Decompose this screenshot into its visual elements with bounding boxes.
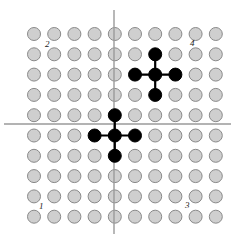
grid-dot: [88, 28, 101, 41]
grid-dot: [149, 109, 162, 122]
marked-dot: [129, 68, 142, 81]
grid-dot: [209, 210, 222, 223]
grid-dot: [48, 109, 61, 122]
grid-dot: [149, 149, 162, 162]
grid-dot: [189, 109, 202, 122]
grid-dot: [88, 190, 101, 203]
quadrant-label-4: 4: [190, 38, 195, 48]
grid-dot: [68, 48, 81, 61]
grid-dot: [108, 68, 121, 81]
grid-dot: [88, 68, 101, 81]
grid-dot: [189, 48, 202, 61]
grid-dot: [149, 170, 162, 183]
grid-dot: [209, 28, 222, 41]
grid-dot: [108, 48, 121, 61]
grid-dot: [169, 88, 182, 101]
marked-dot: [108, 109, 121, 122]
grid-dot: [209, 48, 222, 61]
marked-dot: [129, 129, 142, 142]
grid-dot: [129, 170, 142, 183]
grid-dot: [28, 149, 41, 162]
grid-dot: [28, 109, 41, 122]
marked-dot: [149, 48, 162, 61]
grid-dot: [169, 149, 182, 162]
grid-dot: [189, 210, 202, 223]
grid-dot: [68, 190, 81, 203]
grid-dot: [48, 129, 61, 142]
grid-dot: [108, 28, 121, 41]
grid-dot: [68, 28, 81, 41]
grid-dot: [209, 149, 222, 162]
grid-dot: [48, 48, 61, 61]
grid-dot: [108, 190, 121, 203]
grid-dot: [28, 68, 41, 81]
grid-dot: [68, 68, 81, 81]
grid-dot: [169, 28, 182, 41]
grid-dot: [48, 28, 61, 41]
grid-dot: [88, 210, 101, 223]
grid-dot: [28, 210, 41, 223]
grid-dot: [28, 48, 41, 61]
grid-dot: [209, 170, 222, 183]
grid-dot: [189, 190, 202, 203]
grid-dot: [28, 88, 41, 101]
grid-dot: [48, 68, 61, 81]
grid-dot: [28, 28, 41, 41]
marked-dot: [108, 129, 121, 142]
grid-dot: [68, 88, 81, 101]
grid-dot: [129, 28, 142, 41]
grid-dot: [189, 129, 202, 142]
grid-dot: [28, 170, 41, 183]
grid-dot: [129, 109, 142, 122]
grid-dot: [149, 210, 162, 223]
grid-dot: [129, 149, 142, 162]
grid-dot: [189, 88, 202, 101]
grid-dot: [149, 190, 162, 203]
grid-dot: [28, 129, 41, 142]
grid-dot: [48, 170, 61, 183]
grid-dot: [169, 210, 182, 223]
figure-root: 2413: [0, 0, 235, 242]
grid-dot: [48, 88, 61, 101]
grid-dot: [209, 190, 222, 203]
grid-dot: [169, 170, 182, 183]
grid-dot: [169, 129, 182, 142]
grid-dot: [68, 210, 81, 223]
grid-dot: [48, 210, 61, 223]
quadrant-label-1: 1: [39, 201, 44, 211]
grid-dot: [68, 170, 81, 183]
grid-dot: [108, 170, 121, 183]
grid-dot: [209, 88, 222, 101]
grid-dot: [149, 129, 162, 142]
marked-dots-layer: [88, 48, 182, 163]
grid-dot: [108, 210, 121, 223]
grid-dot: [209, 129, 222, 142]
grid-dot: [209, 68, 222, 81]
grid-dot: [48, 190, 61, 203]
grid-dot: [88, 88, 101, 101]
quadrant-label-2: 2: [45, 39, 50, 49]
grid-dot: [88, 170, 101, 183]
grid-dot: [129, 190, 142, 203]
grid-dot: [108, 88, 121, 101]
quadrant-label-3: 3: [184, 200, 190, 210]
grid-dot: [189, 68, 202, 81]
grid-dot: [169, 109, 182, 122]
grid-dot: [68, 149, 81, 162]
marked-dot: [108, 149, 121, 162]
grid-dot: [129, 88, 142, 101]
grid-dot: [169, 48, 182, 61]
marked-dot: [149, 88, 162, 101]
grid-dots-layer: [28, 28, 223, 224]
marked-dot: [169, 68, 182, 81]
quadrant-dot-grid-chart: 2413: [0, 0, 235, 242]
grid-dot: [189, 149, 202, 162]
grid-dot: [189, 170, 202, 183]
grid-dot: [169, 190, 182, 203]
marked-dot: [88, 129, 101, 142]
marked-dot: [149, 68, 162, 81]
grid-dot: [88, 109, 101, 122]
grid-dot: [48, 149, 61, 162]
grid-dot: [68, 109, 81, 122]
grid-dot: [209, 109, 222, 122]
